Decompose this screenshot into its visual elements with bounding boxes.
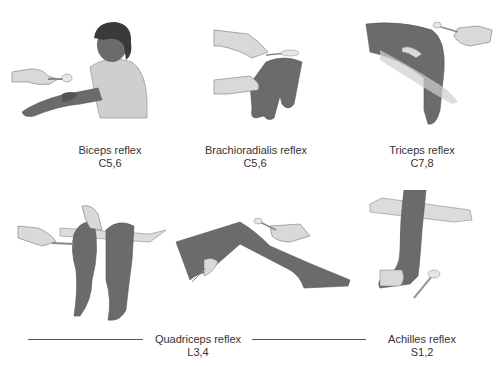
reflex-name: Quadriceps reflex: [143, 333, 253, 346]
quadriceps-rule-left: [28, 339, 143, 340]
caption-achilles: Achilles reflex S1,2: [372, 333, 472, 359]
panel-triceps: Triceps reflex C7,8: [340, 0, 504, 190]
quadriceps-seated-illustration: [0, 190, 170, 330]
quadriceps-rule-right: [252, 339, 366, 340]
nerve-roots: C5,6: [205, 157, 305, 170]
nerve-roots: C7,8: [372, 157, 472, 170]
caption-quadriceps: Quadriceps reflex L3,4: [143, 333, 253, 359]
nerve-roots: C5,6: [60, 157, 160, 170]
caption-triceps: Triceps reflex C7,8: [372, 144, 472, 170]
panel-biceps: Biceps reflex C5,6: [0, 0, 170, 190]
quadriceps-supine-illustration: [160, 190, 360, 300]
reflex-name: Biceps reflex: [60, 144, 160, 157]
reflex-name: Triceps reflex: [372, 144, 472, 157]
nerve-roots: L3,4: [143, 346, 253, 359]
reflex-name: Brachioradialis reflex: [205, 144, 305, 157]
nerve-roots: S1,2: [372, 346, 472, 359]
achilles-reflex-illustration: [340, 190, 504, 310]
caption-biceps: Biceps reflex C5,6: [60, 144, 160, 170]
caption-brachioradialis: Brachioradialis reflex C5,6: [205, 144, 305, 170]
reflex-name: Achilles reflex: [372, 333, 472, 346]
panel-brachioradialis: Brachioradialis reflex C5,6: [170, 0, 340, 190]
